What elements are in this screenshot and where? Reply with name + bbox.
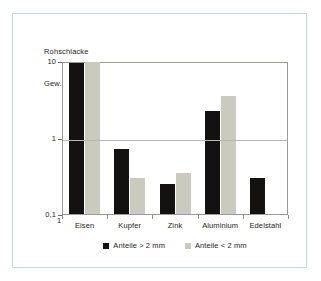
bar-aluminium-series1 — [205, 111, 220, 214]
y-axis-tick-mark — [58, 62, 62, 63]
x-axis-tick-mark — [152, 215, 153, 219]
legend-entry-2: Anteile < 2 mm — [185, 241, 247, 250]
chart-legend: Anteile > 2 mmAnteile < 2 mm — [62, 241, 288, 250]
x-axis-tick-mark — [288, 215, 289, 219]
y-axis-tick-label: 1 — [30, 134, 56, 143]
x-axis-tick-mark — [198, 215, 199, 219]
x-axis-tick-mark — [62, 215, 63, 219]
bar-zink-series1 — [160, 184, 175, 214]
legend-swatch-icon — [103, 243, 109, 249]
legend-label: Anteile < 2 mm — [195, 241, 247, 250]
x-axis-tick-mark — [243, 215, 244, 219]
bar-kupfer-series1 — [114, 149, 129, 214]
chart-figure: Rohschlacke Gew.-% 1010,1 EisenKupferZin… — [0, 0, 321, 281]
x-axis-label-edelstahl: Edelstahl — [243, 221, 288, 230]
legend-label: Anteile > 2 mm — [113, 241, 165, 250]
x-axis-origin-label: 1 — [57, 216, 61, 225]
y-axis-tick-mark — [58, 139, 62, 140]
bar-aluminium-series2 — [221, 96, 236, 214]
x-axis-label-aluminium: Aluminium — [198, 221, 243, 230]
legend-entry-1: Anteile > 2 mm — [103, 241, 165, 250]
bar-eisen-series2 — [85, 62, 100, 214]
y-axis-tick-label: 10 — [30, 57, 56, 66]
bar-eisen-series1 — [69, 63, 84, 214]
chart-title: Rohschlacke — [44, 47, 89, 58]
bar-zink-series2 — [176, 173, 191, 214]
y-axis-tick-label: 0,1 — [30, 210, 56, 219]
gridline — [63, 140, 287, 141]
x-axis-label-zink: Zink — [152, 221, 197, 230]
bar-edelstahl-series1 — [250, 178, 265, 214]
legend-swatch-icon — [185, 243, 191, 249]
x-axis-label-kupfer: Kupfer — [107, 221, 152, 230]
bars-layer — [63, 63, 287, 214]
plot-area — [62, 62, 288, 215]
x-axis-tick-mark — [107, 215, 108, 219]
bar-kupfer-series2 — [130, 178, 145, 214]
x-axis-label-eisen: Eisen — [62, 221, 107, 230]
